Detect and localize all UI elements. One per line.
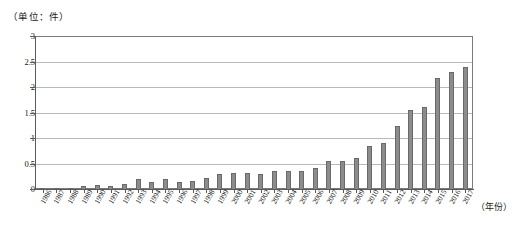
x-tick-label-2017: 2017: [461, 188, 476, 205]
x-axis-title: （年份）: [476, 200, 512, 213]
bar-slot: [159, 37, 173, 189]
x-slot: 2011: [377, 190, 391, 228]
bar-2010: [367, 146, 372, 189]
x-slot: 2010: [363, 190, 377, 228]
x-slot: 2004: [281, 190, 295, 228]
x-slot: 2014: [418, 190, 432, 228]
x-slot: 2005: [295, 190, 309, 228]
x-axis-labels: 1986198719881989199019911992199319941995…: [36, 190, 472, 228]
bar-slot: [145, 37, 159, 189]
y-tick-mark-0.5: [30, 164, 35, 165]
bar-2009: [354, 158, 359, 189]
x-slot: 1988: [63, 190, 77, 228]
x-slot: 2008: [336, 190, 350, 228]
bar-2005: [299, 171, 304, 189]
bar-2013: [408, 110, 413, 189]
bar-slot: [322, 37, 336, 189]
bar-slot: [281, 37, 295, 189]
x-slot: 1989: [77, 190, 91, 228]
x-slot: 1986: [36, 190, 50, 228]
bar-slot: [77, 37, 91, 189]
bar-slot: [36, 37, 50, 189]
x-slot: 2000: [227, 190, 241, 228]
bar-1999: [217, 174, 222, 189]
x-slot: 2007: [322, 190, 336, 228]
bar-2001: [245, 173, 250, 189]
x-slot: 1997: [186, 190, 200, 228]
chart-container: （单位：件） 00.511.522.53 1986198719881989199…: [0, 0, 520, 228]
bar-2015: [435, 78, 440, 189]
bar-slot: [458, 37, 472, 189]
x-slot: 2012: [390, 190, 404, 228]
bar-2017: [463, 67, 468, 189]
bar-slot: [172, 37, 186, 189]
bar-2014: [422, 107, 427, 189]
bar-slot: [418, 37, 432, 189]
x-slot: 2002: [254, 190, 268, 228]
bar-slot: [186, 37, 200, 189]
x-slot: 1987: [50, 190, 64, 228]
x-slot: 2013: [404, 190, 418, 228]
bar-2002: [258, 174, 263, 189]
bar-2011: [381, 143, 386, 189]
bar-2006: [313, 168, 318, 189]
bar-2008: [340, 161, 345, 189]
bar-2004: [286, 171, 291, 189]
bar-slot: [431, 37, 445, 189]
x-slot: 2006: [309, 190, 323, 228]
x-slot: 2009: [349, 190, 363, 228]
x-slot: 1991: [104, 190, 118, 228]
x-slot: 2015: [431, 190, 445, 228]
x-slot: 1999: [213, 190, 227, 228]
x-slot: 1990: [91, 190, 105, 228]
bar-slot: [50, 37, 64, 189]
y-tick-mark-2: [30, 87, 35, 88]
bar-slot: [268, 37, 282, 189]
bar-slot: [390, 37, 404, 189]
y-tick-mark-3: [30, 36, 35, 37]
bar-2016: [449, 72, 454, 189]
bar-slot: [91, 37, 105, 189]
x-slot: 2001: [240, 190, 254, 228]
x-slot: 2003: [268, 190, 282, 228]
bar-slot: [213, 37, 227, 189]
x-slot: 1998: [200, 190, 214, 228]
bar-2003: [272, 171, 277, 189]
bar-slot: [63, 37, 77, 189]
bar-slot: [104, 37, 118, 189]
x-slot: 2017: [458, 190, 472, 228]
bar-slot: [404, 37, 418, 189]
y-axis-ticks: 00.511.522.53: [0, 0, 35, 228]
bar-slot: [295, 37, 309, 189]
x-slot: 2016: [445, 190, 459, 228]
x-slot: 1994: [145, 190, 159, 228]
y-tick-mark-2.5: [30, 62, 35, 63]
bar-slot: [240, 37, 254, 189]
bar-slot: [200, 37, 214, 189]
bar-slot: [254, 37, 268, 189]
x-slot: 1995: [159, 190, 173, 228]
bar-2007: [326, 161, 331, 189]
bar-slot: [309, 37, 323, 189]
y-tick-mark-1.5: [30, 113, 35, 114]
bar-slot: [349, 37, 363, 189]
bar-slot: [227, 37, 241, 189]
y-tick-mark-1: [30, 138, 35, 139]
bar-slot: [131, 37, 145, 189]
bar-slot: [445, 37, 459, 189]
bar-series: [36, 37, 472, 189]
x-slot: 1993: [131, 190, 145, 228]
x-slot: 1996: [172, 190, 186, 228]
bar-slot: [377, 37, 391, 189]
bar-2012: [395, 126, 400, 189]
bar-slot: [118, 37, 132, 189]
x-slot: 1992: [118, 190, 132, 228]
bar-slot: [363, 37, 377, 189]
bar-slot: [336, 37, 350, 189]
bar-2000: [231, 173, 236, 189]
